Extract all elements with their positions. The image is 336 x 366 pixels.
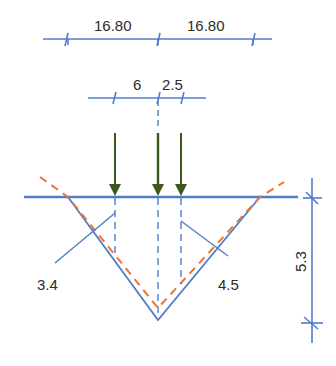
height-dimension: 5.3 <box>292 178 323 343</box>
load-spacing-dimension: 6 2.5 <box>88 76 206 104</box>
load-arrow-1 <box>109 133 121 196</box>
load-spacing-label-2: 2.5 <box>162 76 183 93</box>
ordinate-label-left: 3.4 <box>37 276 58 293</box>
load-arrows <box>109 133 187 196</box>
load-arrow-3 <box>175 133 187 196</box>
span-left-label: 16.80 <box>94 17 132 34</box>
load-arrow-2 <box>152 133 164 196</box>
ordinate-label-right: 4.5 <box>218 276 239 293</box>
load-spacing-label-1: 6 <box>133 76 141 93</box>
influence-line-diagram: 16.80 16.80 6 2.5 3 <box>0 0 336 366</box>
span-dimension: 16.80 16.80 <box>43 17 272 46</box>
height-label: 5.3 <box>292 251 309 272</box>
span-right-label: 16.80 <box>187 17 225 34</box>
